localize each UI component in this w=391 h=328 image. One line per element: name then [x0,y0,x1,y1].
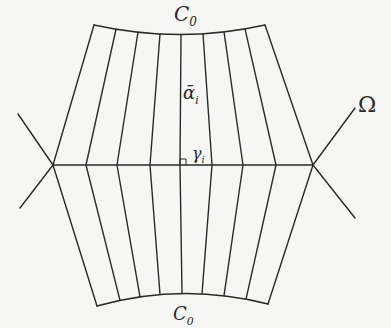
right-whisker-line [313,108,355,165]
label-bottom-c0: C0 [173,305,194,327]
label-omega: Ω [358,94,376,116]
label-gamma-i: γi [192,146,205,165]
right-whisker-line [313,165,355,218]
vertical-curve-line [245,29,276,299]
label-top-c0: C0 [174,4,197,28]
diagram-canvas: C0 C0 ᾱi γi Ω [0,0,391,328]
vertical-curve-line [150,34,160,295]
label-alpha-i: ᾱi [183,84,199,106]
right-angle-marker [180,159,186,165]
left-whisker-line [18,114,53,165]
left-whisker-line [20,165,53,208]
vertical-curve-line [224,32,243,296]
